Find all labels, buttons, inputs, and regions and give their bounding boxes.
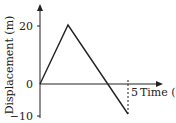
displacement-line bbox=[40, 25, 128, 114]
x-tick-label-5: 5 bbox=[131, 86, 138, 99]
x-axis-label: Time (s) bbox=[140, 86, 176, 99]
y-tick-label-0: 0 bbox=[26, 78, 33, 91]
y-axis-arrow-icon bbox=[37, 4, 43, 11]
y-axis-label: Displacement (m) bbox=[3, 16, 16, 115]
displacement-time-chart: 20 0 −10 Displacement (m) 5 Time (s) bbox=[0, 0, 176, 123]
y-tick-label-20: 20 bbox=[19, 20, 33, 33]
